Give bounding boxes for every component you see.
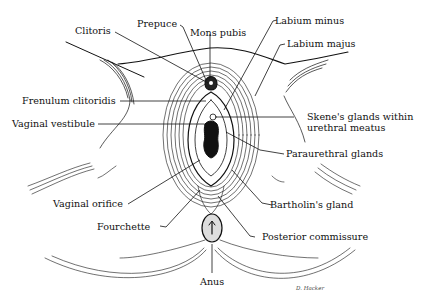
buttocks-hatch — [45, 240, 355, 278]
label-fourchette: Fourchette — [97, 221, 150, 232]
vaginal-orifice — [204, 121, 219, 158]
mons-contour — [118, 48, 348, 64]
label-skenes-glands-line2: urethral meatus — [307, 122, 385, 133]
label-labium-majus: Labium majus — [287, 38, 356, 49]
label-frenulum-clitoridis: Frenulum clitoridis — [22, 95, 116, 106]
clitoris — [209, 81, 213, 85]
label-vaginal-orifice: Vaginal orifice — [53, 198, 123, 209]
label-anus: Anus — [200, 276, 224, 287]
label-skenes-glands-line1: Skene's glands within — [307, 111, 413, 122]
label-vaginal-vestibule: Vaginal vestibule — [12, 118, 95, 129]
label-posterior-commissure: Posterior commissure — [262, 231, 368, 242]
label-clitoris: Clitoris — [75, 25, 111, 36]
left-thigh-line — [66, 42, 144, 77]
artist-signature: D. Hacker — [296, 285, 324, 291]
label-paraurethral-glands: Paraurethral glands — [286, 148, 383, 159]
label-labium-minus: Labium minus — [275, 15, 344, 26]
label-bartholins-gland: Bartholin's gland — [270, 199, 353, 210]
label-prepuce: Prepuce — [137, 18, 177, 29]
perineum-hatch — [198, 186, 224, 214]
label-mons-pubis: Mons pubis — [190, 27, 246, 38]
